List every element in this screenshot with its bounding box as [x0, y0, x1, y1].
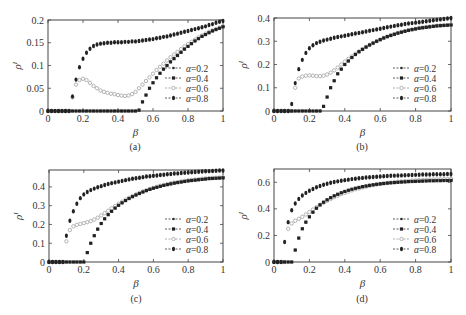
panel-caption: (c) [130, 293, 141, 305]
y-axis-label: ρI [12, 212, 24, 221]
x-tick-label: 0.4 [112, 113, 125, 124]
y-tick-label: 0.05 [27, 83, 45, 94]
y-tick-label: 0.1 [33, 238, 46, 249]
figure-2x2-grid: 00.20.40.60.8100.050.10.150.2ρIβ(a)α=0.2… [0, 0, 466, 315]
x-tick-label: 0.4 [112, 264, 125, 275]
y-tick-label: 0.2 [33, 219, 46, 230]
panel-c: 00.20.40.60.8100.10.20.30.4ρIβ(c)α=0.2α=… [12, 168, 226, 305]
panel-caption: (a) [129, 141, 140, 153]
legend-entry: α=0.6 [186, 84, 208, 94]
panel-caption: (b) [356, 141, 368, 153]
legend-entry: α=0.6 [414, 84, 436, 94]
panel-b: 00.20.40.60.8100.10.20.30.4ρIβ(b)α=0.2α=… [237, 13, 454, 154]
legend: α=0.2α=0.4α=0.6α=0.8 [393, 64, 436, 104]
y-tick-label: 0.1 [258, 82, 271, 93]
y-tick-label: 0.15 [27, 37, 45, 48]
panel-d: 00.20.40.60.8100.20.40.6ρIβ(d)α=0.2α=0.4… [237, 169, 454, 305]
x-axis-label: β [132, 277, 139, 289]
x-tick-label: 0.4 [339, 264, 352, 275]
legend: α=0.2α=0.4α=0.6α=0.8 [393, 215, 436, 255]
y-tick-label: 0 [40, 257, 45, 268]
x-tick-label: 0.4 [339, 113, 352, 124]
y-tick-label: 0 [39, 106, 44, 117]
y-tick-label: 0.6 [258, 177, 271, 188]
y-tick-label: 0 [265, 257, 270, 268]
legend-entry: α=0.2 [414, 64, 436, 74]
legend-entry: α=0.8 [414, 245, 436, 255]
legend-entry: α=0.2 [414, 215, 436, 225]
chart-canvas: 00.20.40.60.8100.050.10.150.2ρIβ(a)α=0.2… [0, 0, 466, 315]
x-tick-label: 0.6 [374, 113, 387, 124]
y-tick-label: 0.2 [258, 59, 271, 70]
legend-entry: α=0.4 [186, 74, 208, 84]
x-tick-label: 0.8 [409, 264, 422, 275]
x-tick-label: 0.6 [374, 264, 387, 275]
y-tick-label: 0.4 [33, 181, 46, 192]
x-tick-label: 0.2 [77, 113, 90, 124]
x-tick-label: 1 [221, 113, 226, 124]
legend-entry: α=0.2 [186, 64, 208, 74]
y-tick-label: 0.4 [258, 13, 271, 24]
legend-entry: α=0.8 [186, 245, 208, 255]
y-axis-label: ρI [237, 211, 249, 220]
x-tick-label: 0.6 [147, 264, 160, 275]
x-axis-label: β [132, 126, 139, 138]
legend-entry: α=0.8 [414, 94, 436, 104]
x-tick-label: 0 [47, 264, 52, 275]
x-tick-label: 0.6 [147, 113, 160, 124]
x-tick-label: 0.8 [182, 264, 195, 275]
x-tick-label: 1 [449, 264, 454, 275]
y-tick-label: 0.4 [258, 203, 271, 214]
legend-entry: α=0.8 [186, 94, 208, 104]
legend-entry: α=0.4 [414, 225, 436, 235]
x-tick-label: 0.2 [78, 264, 91, 275]
y-tick-label: 0.2 [32, 15, 45, 26]
x-tick-label: 0 [272, 113, 277, 124]
x-tick-label: 0 [272, 264, 277, 275]
panel-a: 00.20.40.60.8100.050.10.150.2ρIβ(a)α=0.2… [11, 15, 226, 154]
legend-entry: α=0.6 [186, 235, 208, 245]
y-tick-label: 0 [265, 106, 270, 117]
x-tick-label: 0 [46, 113, 51, 124]
x-axis-label: β [359, 126, 366, 138]
x-tick-label: 1 [449, 113, 454, 124]
legend-entry: α=0.4 [186, 225, 208, 235]
x-tick-label: 0.2 [303, 264, 316, 275]
x-tick-label: 0.2 [303, 113, 316, 124]
legend: α=0.2α=0.4α=0.6α=0.8 [165, 215, 208, 255]
x-axis-label: β [359, 277, 366, 289]
legend-entry: α=0.4 [414, 74, 436, 84]
y-tick-label: 0.3 [258, 36, 271, 47]
x-tick-label: 0.8 [182, 113, 195, 124]
x-tick-label: 1 [221, 264, 226, 275]
y-axis-label: ρI [11, 61, 23, 70]
y-tick-label: 0.3 [33, 200, 46, 211]
legend-entry: α=0.6 [414, 235, 436, 245]
legend-entry: α=0.2 [186, 215, 208, 225]
y-tick-label: 0.2 [258, 230, 271, 241]
x-tick-label: 0.8 [409, 113, 422, 124]
y-tick-label: 0.1 [32, 60, 45, 71]
legend: α=0.2α=0.4α=0.6α=0.8 [165, 64, 208, 104]
panel-caption: (d) [356, 293, 368, 305]
y-axis-label: ρI [237, 60, 249, 69]
